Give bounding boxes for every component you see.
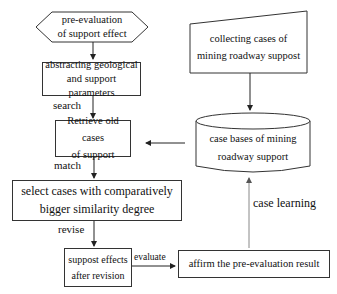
edge-label-revise: revise: [58, 223, 84, 235]
node-text: after revision: [71, 268, 124, 284]
node-text: roadway support: [218, 148, 288, 166]
node-text: case bases of mining: [209, 130, 296, 148]
node-affirm: affirm the pre-evaluation result: [178, 250, 330, 278]
node-text: bigger similarity degree: [40, 201, 155, 218]
node-case-bases: case bases of mining roadway support: [196, 130, 310, 166]
node-select: select cases with comparatively bigger s…: [12, 180, 182, 221]
edge-label-search: search: [53, 99, 81, 111]
node-text: suppost effects: [68, 252, 128, 268]
node-collecting: collecting cases of mining roadway suppo…: [190, 28, 307, 68]
node-text: abstracting geological: [45, 58, 137, 72]
edge-label-match: match: [54, 159, 81, 171]
node-retrieve: Retrieve old cases of support: [55, 120, 131, 157]
node-text: and support parameters: [43, 72, 140, 100]
node-text: of support effect: [57, 27, 126, 41]
node-text: affirm the pre-evaluation result: [189, 257, 320, 271]
node-support-effects: suppost effects after revision: [64, 248, 132, 287]
node-text: select cases with comparatively: [21, 183, 173, 200]
edge-label-evaluate: evaluate: [134, 252, 166, 262]
node-text: Retrieve old cases: [56, 113, 130, 147]
node-text: pre-evaluation: [62, 13, 123, 27]
edge-label-case-learning: case learning: [253, 196, 316, 211]
node-abstracting: abstracting geological and support param…: [42, 62, 141, 96]
node-text: mining roadway suppost: [197, 48, 300, 65]
node-text: collecting cases of: [210, 31, 288, 48]
node-pre-evaluation: pre-evaluation of support effect: [52, 12, 132, 42]
